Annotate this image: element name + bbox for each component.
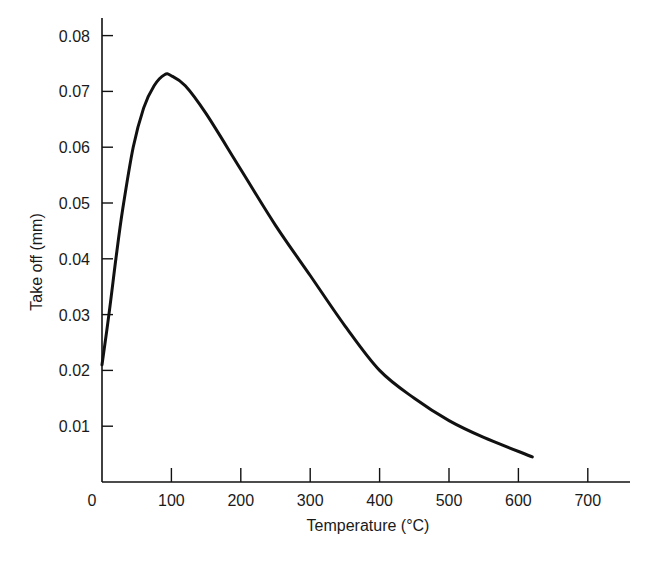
x-tick-label: 400 xyxy=(366,492,393,509)
axes xyxy=(102,18,630,482)
y-tick-label: 0.08 xyxy=(59,28,90,45)
chart-canvas: 01002003004005006007000.010.020.030.040.… xyxy=(0,0,649,562)
x-axis-title: Temperature (°C) xyxy=(307,517,430,534)
x-tick-label: 600 xyxy=(505,492,532,509)
x-tick-label: 500 xyxy=(436,492,463,509)
x-tick-label: 700 xyxy=(574,492,601,509)
x-tick-label: 100 xyxy=(158,492,185,509)
y-tick-label: 0.02 xyxy=(59,362,90,379)
x-tick-label: 300 xyxy=(297,492,324,509)
x-tick-label: 200 xyxy=(227,492,254,509)
y-tick-label: 0.01 xyxy=(59,418,90,435)
x-tick-label: 0 xyxy=(88,492,97,509)
ticks: 01002003004005006007000.010.020.030.040.… xyxy=(59,28,601,509)
y-axis-title: Take off (mm) xyxy=(28,213,45,311)
take-off-curve xyxy=(102,74,532,457)
y-tick-label: 0.07 xyxy=(59,83,90,100)
y-tick-label: 0.04 xyxy=(59,251,90,268)
y-tick-label: 0.06 xyxy=(59,139,90,156)
y-tick-label: 0.03 xyxy=(59,307,90,324)
y-tick-label: 0.05 xyxy=(59,195,90,212)
